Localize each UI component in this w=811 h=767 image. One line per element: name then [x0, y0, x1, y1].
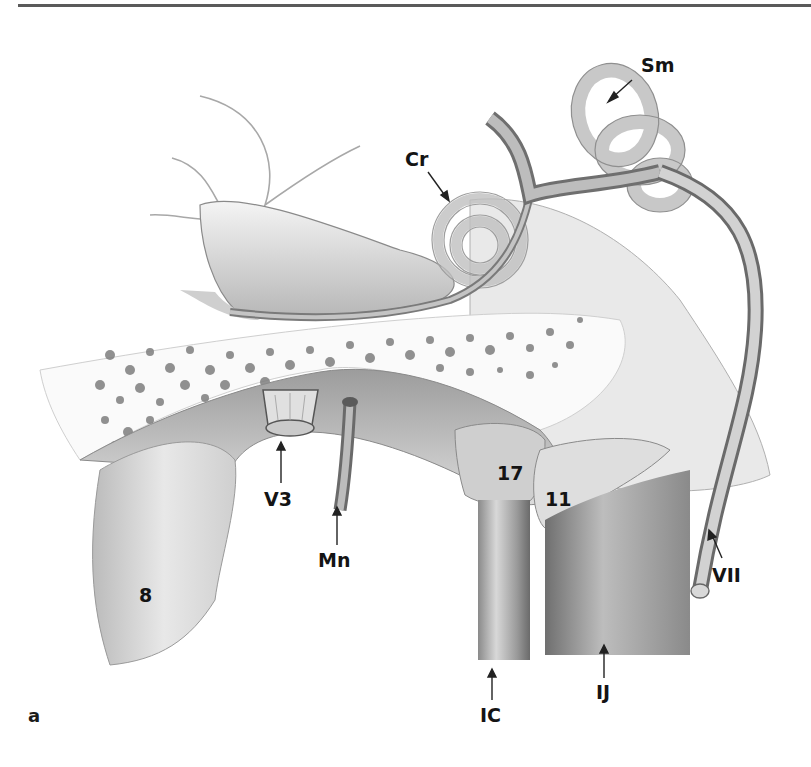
label-sm: Sm [641, 56, 674, 75]
label-mn: Mn [318, 551, 350, 570]
label-8: 8 [139, 586, 152, 605]
label-vii: VII [712, 566, 741, 585]
structure-8 [93, 442, 236, 665]
v3-nerve-stump [263, 390, 318, 436]
anatomical-illustration [0, 0, 811, 767]
panel-letter: a [28, 705, 40, 726]
temporal-lobe [200, 201, 454, 315]
label-11: 11 [545, 490, 571, 509]
label-v3: V3 [264, 490, 292, 509]
label-ic: IC [480, 706, 501, 725]
dura-folds [150, 96, 360, 220]
internal-carotid-artery [478, 500, 530, 660]
label-cr: Cr [405, 150, 428, 169]
label-ij: IJ [596, 683, 610, 702]
label-17: 17 [497, 464, 523, 483]
